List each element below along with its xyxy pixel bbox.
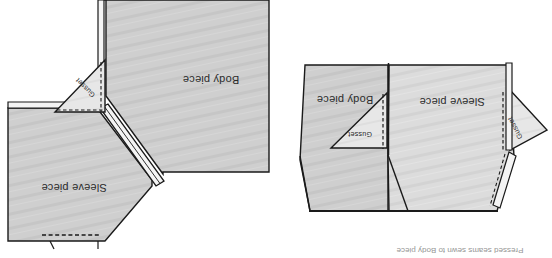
right-body-piece-label: Body piece bbox=[317, 94, 373, 106]
left-panel: Body piece Sleeve piece Gusset bbox=[8, 0, 269, 249]
left-body-piece-label: Body piece bbox=[183, 74, 239, 86]
right-sleeve-piece-label: Sleeve piece bbox=[419, 96, 484, 108]
left-sleeve-piece-label: Sleeve piece bbox=[41, 182, 106, 194]
left-notch-mark-a bbox=[50, 241, 54, 249]
right-edge-fold-strip bbox=[506, 63, 512, 150]
right-panel-caption: Pressed seams sewn to Body piece bbox=[396, 246, 523, 255]
right-panel: Body piece Sleeve piece Gusset Gusset Pr… bbox=[300, 63, 547, 255]
sewing-pattern-diagram: Body piece Sleeve piece Gusset bbox=[0, 0, 552, 258]
right-gusset-left-label: Gusset bbox=[348, 130, 372, 139]
figure-canvas: Body piece Sleeve piece Gusset bbox=[0, 0, 552, 258]
